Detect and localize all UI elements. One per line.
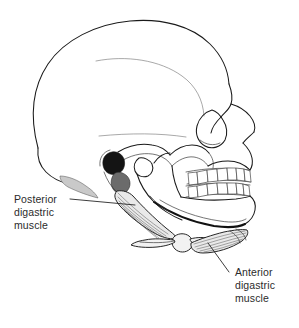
anterior-label-line-2: digastric: [235, 279, 275, 291]
facial-profile: [211, 84, 255, 170]
lower-teeth-row: [186, 183, 250, 198]
anterior-label-line-3: muscle: [235, 292, 269, 304]
posterior-digastric-label: Posterior digastric muscle: [14, 193, 57, 231]
posterior-digastric-belly: [115, 191, 177, 239]
posterior-label-line-2: digastric: [14, 206, 54, 218]
anterior-digastric-label: Anterior digastric muscle: [235, 266, 275, 304]
anatomy-figure: Posterior digastric muscle Anterior diga…: [0, 0, 299, 328]
posterior-label-line-3: muscle: [14, 219, 48, 231]
external-auditory-meatus: [100, 150, 125, 175]
mastoid-process: [104, 172, 130, 193]
anterior-label-line-1: Anterior: [235, 266, 273, 278]
upper-teeth-row: [186, 168, 251, 185]
occipital-shading: [60, 176, 98, 198]
zygomatic-arch: [118, 144, 209, 166]
leader-lines: [70, 199, 229, 272]
posterior-label-line-1: Posterior: [14, 193, 57, 205]
maxilla: [208, 153, 250, 170]
skull-lateral-illustration: Posterior digastric muscle Anterior diga…: [0, 0, 299, 328]
temporal-line: [96, 59, 204, 137]
cranium: [33, 20, 229, 184]
anterior-digastric-belly: [191, 229, 248, 253]
